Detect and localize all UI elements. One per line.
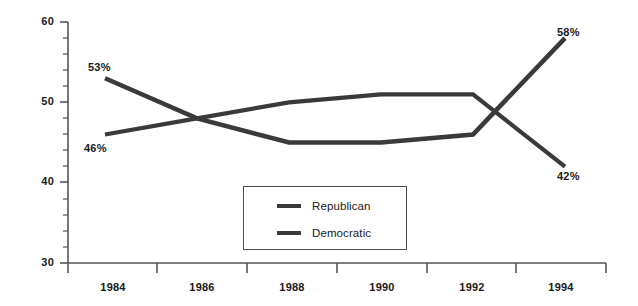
x-tick-label-1984: 1984	[87, 281, 139, 293]
x-axis-ticks	[68, 263, 606, 273]
legend-swatch-republican-icon	[277, 204, 301, 208]
legend-swatch-democratic-icon	[277, 231, 301, 235]
x-tick-label-1992: 1992	[446, 281, 498, 293]
x-tick-label-1988: 1988	[266, 281, 318, 293]
y-tick-label-50: 50	[26, 95, 54, 107]
y-axis-major-ticks	[60, 22, 68, 263]
series-line-democratic	[105, 94, 565, 166]
annotation-republican-1984: 53%	[88, 61, 111, 73]
x-tick-label-1994: 1994	[535, 281, 587, 293]
x-tick-label-1990: 1990	[356, 281, 408, 293]
annotation-democratic-1994: 42%	[557, 170, 580, 182]
y-tick-label-60: 60	[26, 15, 54, 27]
legend-item-republican: Republican	[244, 193, 408, 219]
chart-legend: Republican Democratic	[243, 186, 407, 250]
legend-item-democratic: Democratic	[244, 220, 408, 246]
line-chart: 60 50 40 30 1984 1986 1988 1990 1992 199…	[0, 0, 638, 306]
series-line-republican	[105, 38, 565, 142]
y-tick-label-30: 30	[26, 256, 54, 268]
x-tick-label-1986: 1986	[176, 281, 228, 293]
legend-label-republican: Republican	[312, 200, 371, 212]
annotation-republican-1994: 58%	[557, 26, 580, 38]
annotation-democratic-1984: 46%	[84, 142, 107, 154]
legend-label-democratic: Democratic	[312, 227, 371, 239]
y-tick-label-40: 40	[26, 175, 54, 187]
